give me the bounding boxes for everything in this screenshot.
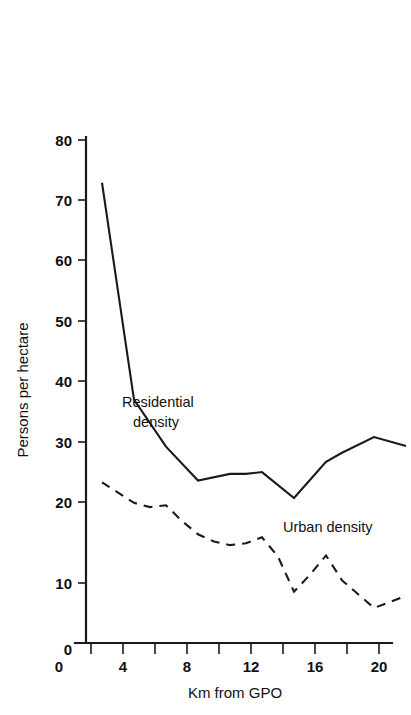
y-axis-ticks [78, 140, 86, 583]
y-tick-label-60: 60 [55, 252, 72, 269]
series-label-residential-line2: density [133, 414, 180, 430]
x-tick-label-16: 16 [307, 658, 324, 675]
chart-canvas: 80 70 60 50 40 30 20 10 0 0 4 8 12 16 20… [0, 0, 411, 715]
x-tick-label-0: 0 [55, 658, 63, 675]
x-axis-ticks [91, 643, 379, 654]
y-tick-label-70: 70 [55, 192, 72, 209]
x-tick-label-4: 4 [119, 658, 128, 675]
series-label-urban: Urban density [283, 519, 373, 535]
density-chart: 80 70 60 50 40 30 20 10 0 0 4 8 12 16 20… [0, 0, 411, 715]
y-tick-label-50: 50 [55, 313, 72, 330]
y-tick-label-20: 20 [55, 494, 72, 511]
series-label-residential-line1: Residential [122, 394, 194, 410]
y-tick-label-0: 0 [64, 641, 72, 658]
series-line-urban-density [102, 482, 406, 608]
y-tick-label-40: 40 [55, 373, 72, 390]
series-line-residential-density [102, 183, 406, 498]
x-axis-title: Km from GPO [188, 684, 282, 701]
y-tick-label-10: 10 [55, 575, 72, 592]
x-tick-label-20: 20 [371, 658, 388, 675]
x-tick-label-8: 8 [183, 658, 191, 675]
y-tick-label-80: 80 [55, 132, 72, 149]
x-tick-label-12: 12 [243, 658, 260, 675]
y-axis-title: Persons per hectare [14, 322, 31, 457]
y-tick-label-30: 30 [55, 434, 72, 451]
